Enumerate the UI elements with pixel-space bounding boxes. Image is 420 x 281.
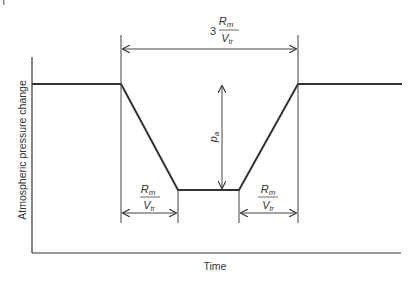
amplitude-label: pa bbox=[207, 131, 221, 143]
left-dimension-label: Rm Vtr bbox=[140, 183, 160, 212]
svg-text:3: 3 bbox=[210, 25, 216, 37]
svg-text:Rm: Rm bbox=[219, 15, 234, 29]
pressure-pulse-diagram: 3 Rm Vtr Rm Vtr Rm Vtr pa Atmospheric pr… bbox=[0, 0, 420, 281]
x-axis-label: Time bbox=[204, 260, 227, 272]
right-dimension-label: Rm Vtr bbox=[258, 183, 278, 212]
corner-mark bbox=[3, 0, 5, 5]
svg-text:Rm: Rm bbox=[141, 183, 156, 197]
svg-text:Vtr: Vtr bbox=[262, 199, 274, 212]
svg-text:Vtr: Vtr bbox=[143, 199, 155, 212]
y-axis-label: Atmospheric pressure change bbox=[16, 80, 28, 220]
svg-text:Vtr: Vtr bbox=[221, 32, 233, 45]
svg-text:Rm: Rm bbox=[261, 183, 276, 197]
top-dimension-label: 3 Rm Vtr bbox=[210, 15, 239, 45]
